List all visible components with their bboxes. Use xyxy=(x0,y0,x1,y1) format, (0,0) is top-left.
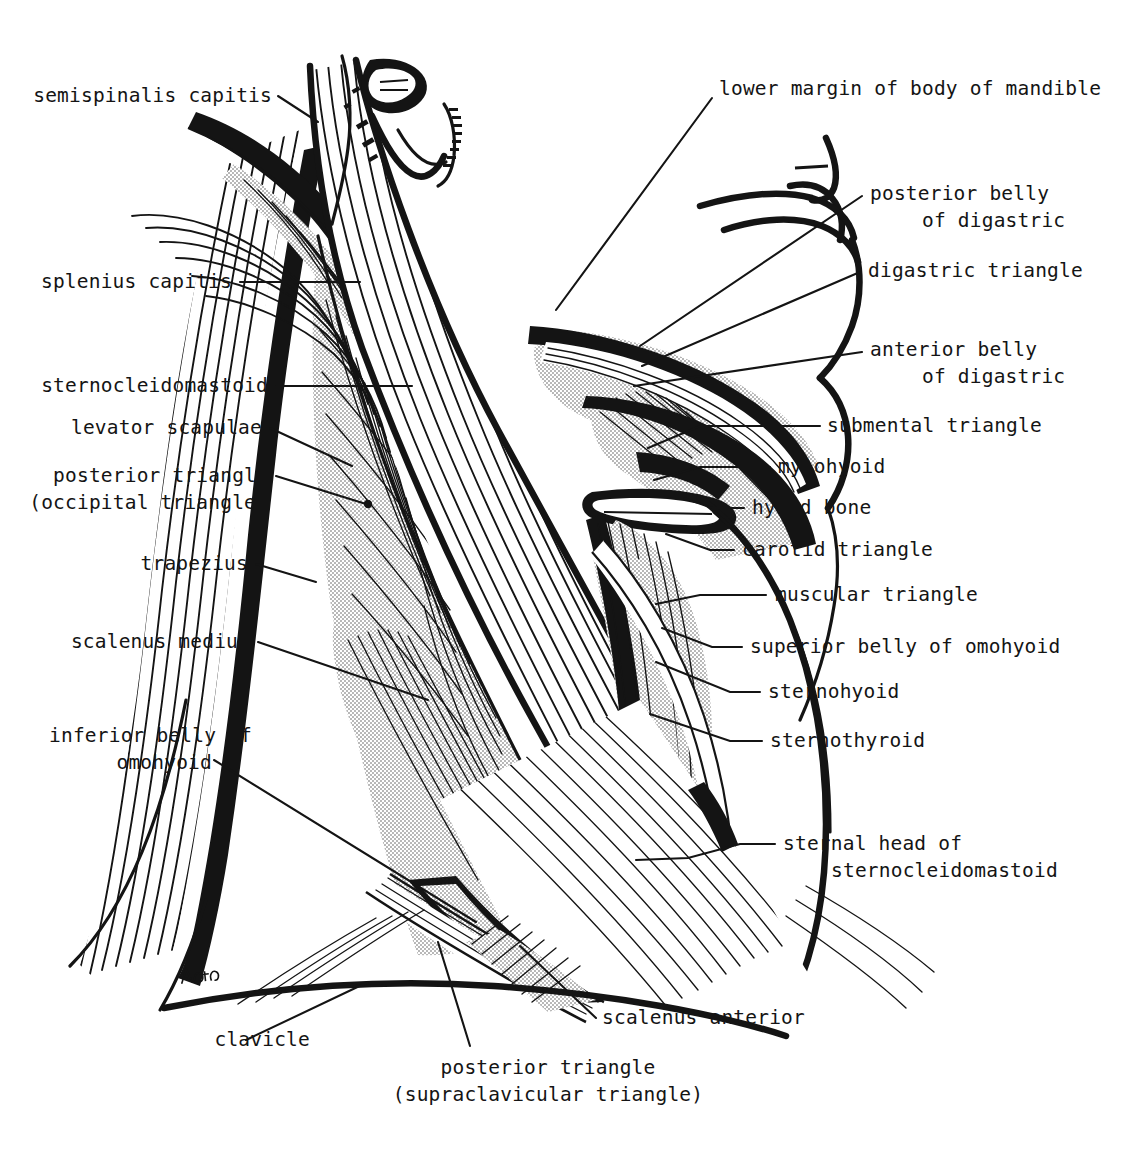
label-superior-belly-of-omohyoid: superior belly of omohyoid xyxy=(750,635,1060,658)
label-sternocleidomastoid: sternocleidomastoid xyxy=(41,374,268,397)
label-posterior-belly-of-digastric-line2: of digastric xyxy=(922,209,1065,232)
label-scalenus-anterior: scalenus anterior xyxy=(602,1006,805,1029)
label-semispinalis-capitis: semispinalis capitis xyxy=(33,84,272,107)
label-muscular-triangle: muscular triangle xyxy=(775,583,978,606)
label-inferior-belly-of-omohyoid-line2: omohyoid xyxy=(116,751,212,774)
label-carotid-triangle: carotid triangle xyxy=(742,538,933,561)
anatomy-illustration: semispinalis capitis splenius capitis st… xyxy=(0,0,1136,1157)
label-anterior-belly-of-digastric-line2: of digastric xyxy=(922,365,1065,388)
label-inferior-belly-of-omohyoid: inferior belly of xyxy=(49,724,252,747)
label-digastric-triangle: digastric triangle xyxy=(868,259,1083,282)
label-sternal-head-of-sternocleidomastoid-line2: sternocleidomastoid xyxy=(831,859,1058,882)
label-levator-scapulae: levator scapulae xyxy=(71,416,262,439)
label-posterior-triangle-supraclavicular-line2: (supraclavicular triangle) xyxy=(393,1083,703,1106)
label-trapezius: trapezius xyxy=(141,552,248,575)
label-scalenus-medius: scalenus medius xyxy=(71,630,250,653)
anatomy-plate: semispinalis capitis splenius capitis st… xyxy=(0,0,1136,1157)
label-posterior-belly-of-digastric: posterior belly xyxy=(870,182,1049,205)
posterior-triangle-dot xyxy=(364,500,372,508)
label-hyoid-bone: hyoid bone xyxy=(752,496,871,519)
label-mylohyoid: mylohyoid xyxy=(778,455,885,478)
label-sternohyoid: sternohyoid xyxy=(768,680,899,703)
label-posterior-triangle-occipital-line2: (occipital triangle) xyxy=(29,491,268,514)
label-sternal-head-of-sternocleidomastoid: sternal head of xyxy=(783,832,962,855)
label-clavicle: clavicle xyxy=(214,1028,310,1051)
label-anterior-belly-of-digastric: anterior belly xyxy=(870,338,1037,361)
label-posterior-triangle-occipital: posterior triangle xyxy=(53,464,268,487)
label-posterior-triangle-supraclavicular: posterior triangle xyxy=(441,1056,656,1079)
label-lower-margin-of-body-of-mandible: lower margin of body of mandible xyxy=(719,77,1101,100)
label-sternothyroid: sternothyroid xyxy=(770,729,925,752)
label-splenius-capitis: splenius capitis xyxy=(41,270,232,293)
label-submental-triangle: submental triangle xyxy=(827,414,1042,437)
